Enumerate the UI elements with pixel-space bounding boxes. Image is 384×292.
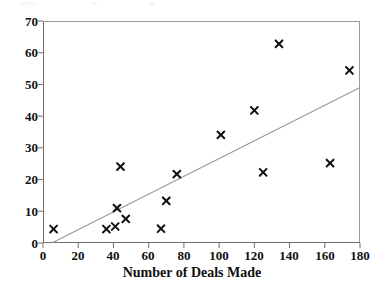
y-tick-label-40: 40 bbox=[8, 110, 38, 123]
x-axis-title: Number of Deals Made bbox=[0, 266, 384, 280]
x-axis-line bbox=[43, 242, 360, 243]
x-tick-label-140: 140 bbox=[272, 249, 306, 262]
y-tick-label-30: 30 bbox=[8, 141, 38, 154]
x-tick-label-20: 20 bbox=[61, 249, 95, 262]
plot-area bbox=[43, 21, 360, 243]
x-tick-label-60: 60 bbox=[131, 249, 165, 262]
right-frame-line bbox=[359, 21, 360, 243]
cropped-title-artifact bbox=[0, 0, 384, 8]
x-tick-label-180: 180 bbox=[343, 249, 377, 262]
x-tick-label-120: 120 bbox=[237, 249, 271, 262]
x-tick-label-100: 100 bbox=[202, 249, 236, 262]
x-tick-label-40: 40 bbox=[96, 249, 130, 262]
top-frame-line bbox=[43, 21, 360, 22]
y-tick-label-60: 60 bbox=[8, 46, 38, 59]
y-tick-label-10: 10 bbox=[8, 205, 38, 218]
x-tick-label-80: 80 bbox=[167, 249, 201, 262]
x-tick-label-160: 160 bbox=[308, 249, 342, 262]
scatter-chart: 70 60 50 40 30 20 10 0 0 20 40 60 80 100… bbox=[0, 0, 384, 292]
x-tick-label-0: 0 bbox=[26, 249, 60, 262]
y-tick-label-70: 70 bbox=[8, 15, 38, 28]
y-tick-label-50: 50 bbox=[8, 78, 38, 91]
y-tick-label-20: 20 bbox=[8, 173, 38, 186]
y-axis-line bbox=[43, 21, 44, 243]
